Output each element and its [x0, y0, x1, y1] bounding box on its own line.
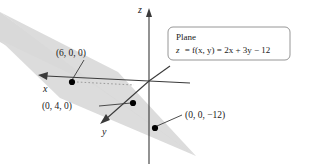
plane-surface-upper [0, 12, 196, 156]
z-axis-label: z [137, 4, 142, 15]
y-axis-label: y [101, 126, 107, 137]
point-y-intercept [130, 100, 136, 106]
point-z-intercept [152, 125, 158, 131]
callout-title: Plane [176, 32, 196, 42]
point-label-z-intercept: (0, 0, −12) [185, 110, 225, 121]
x-axis-extension [149, 81, 190, 83]
x-axis-label: x [42, 83, 48, 94]
z-axis-arrowhead [146, 8, 152, 17]
plane-diagram: x y z (6, 0, 0) (0, 4, 0) (0, 0, −12) Pl… [0, 0, 313, 167]
callout-equation: z = f(x, y) = 2x + 3y − 12 [175, 45, 270, 55]
point-label-x-intercept: (6, 0, 0) [56, 48, 86, 59]
point-x-intercept [69, 79, 75, 85]
point-label-y-intercept: (0, 4, 0) [42, 101, 72, 112]
callout-equation-z: z [175, 45, 180, 55]
callout-equation-rest: = f(x, y) = 2x + 3y − 12 [185, 45, 271, 55]
plane-surface-lower [0, 40, 196, 156]
y-axis-extension [149, 66, 170, 81]
